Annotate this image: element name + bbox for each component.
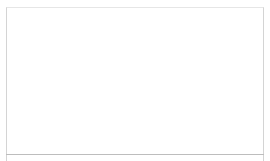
viewport-scene[interactable] <box>0 0 270 161</box>
